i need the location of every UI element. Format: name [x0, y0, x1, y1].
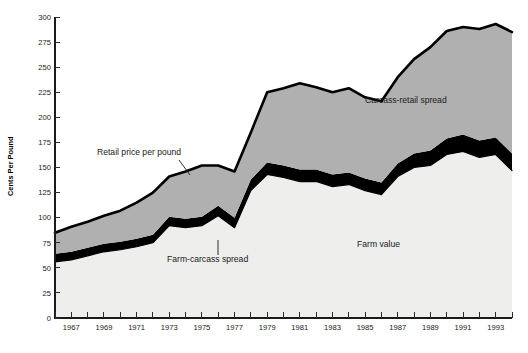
x-tick-label: 1973 — [161, 323, 178, 332]
x-tick-label: 1985 — [357, 323, 374, 332]
svg-text:Cents Per Pound: Cents Per Pound — [6, 136, 15, 196]
x-tick-label: 1975 — [193, 323, 210, 332]
y-tick-label: 125 — [38, 188, 51, 197]
y-tick-label: 25 — [43, 289, 51, 298]
x-tick-label: 1993 — [487, 323, 504, 332]
farm-value-label: Farm value — [357, 239, 400, 249]
farm-carcass-label: Farm-carcass spread — [167, 254, 248, 264]
y-tick-label: 250 — [38, 63, 51, 72]
retail-price-label: Retail price per pound — [97, 147, 181, 157]
x-tick-label: 1991 — [455, 323, 472, 332]
y-tick-label: 50 — [43, 264, 51, 273]
y-tick-label: 225 — [38, 88, 51, 97]
x-tick-label: 1983 — [324, 323, 341, 332]
carcass-retail-label: Carcass-retail spread — [365, 95, 447, 105]
x-tick-label: 1989 — [422, 323, 439, 332]
x-tick-label: 1969 — [96, 323, 113, 332]
x-tick-label: 1987 — [389, 323, 406, 332]
y-tick-label: 175 — [38, 138, 51, 147]
y-tick-label: 150 — [38, 163, 51, 172]
y-tick-label: 275 — [38, 38, 51, 47]
y-tick-label: 100 — [38, 213, 51, 222]
y-axis-title: Cents Per Pound — [6, 136, 15, 196]
x-tick-label: 1977 — [226, 323, 243, 332]
x-tick-label: 1967 — [63, 323, 80, 332]
chart-container: 0255075100125150175200225250275300 19671… — [0, 0, 528, 353]
y-tick-label: 75 — [43, 239, 51, 248]
area-chart: 0255075100125150175200225250275300 19671… — [0, 0, 528, 353]
y-tick-label: 200 — [38, 113, 51, 122]
y-tick-label: 300 — [38, 13, 51, 22]
x-tick-label: 1971 — [128, 323, 145, 332]
x-tick-label: 1981 — [291, 323, 308, 332]
x-tick-label: 1979 — [259, 323, 276, 332]
y-tick-label: 0 — [47, 314, 51, 323]
